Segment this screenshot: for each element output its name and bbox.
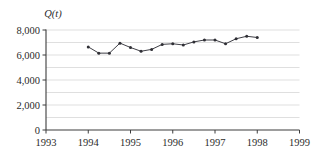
x-tick-label: 1998 — [247, 137, 268, 148]
data-point — [224, 42, 227, 45]
data-point — [161, 43, 164, 46]
data-point — [171, 42, 174, 45]
y-axis-title: Q(t) — [44, 8, 62, 20]
x-tick-label: 1994 — [78, 137, 100, 148]
data-point — [235, 37, 238, 40]
y-tick-label: 2,000 — [16, 100, 40, 111]
data-point — [203, 39, 206, 42]
data-point — [108, 52, 111, 55]
line-chart: 02,0004,0006,0008,000 199319941995199619… — [0, 0, 329, 158]
x-tick-label: 1993 — [36, 137, 57, 148]
data-point — [129, 46, 132, 49]
y-tick-label: 8,000 — [16, 25, 40, 36]
data-point — [182, 44, 185, 47]
x-tick-label: 1996 — [162, 137, 183, 148]
data-point — [192, 40, 195, 43]
data-point — [118, 42, 121, 45]
y-tick-label: 0 — [35, 125, 40, 136]
data-point — [87, 45, 90, 48]
y-axis-tick-labels: 02,0004,0006,0008,000 — [16, 25, 40, 136]
chart-container: 02,0004,0006,0008,000 199319941995199619… — [0, 0, 329, 158]
data-point-markers — [87, 35, 259, 55]
x-tick-label: 1997 — [205, 137, 226, 148]
data-point — [97, 52, 100, 55]
data-point — [245, 35, 248, 38]
x-axis-tick-labels: 1993199419951996199719981999 — [36, 137, 311, 148]
y-tick-label: 6,000 — [16, 50, 40, 61]
y-tick-label: 4,000 — [16, 75, 40, 86]
data-point — [214, 39, 217, 42]
data-point — [140, 50, 143, 53]
data-point — [256, 36, 259, 39]
x-tick-label: 1995 — [120, 137, 141, 148]
x-tick-label: 1999 — [289, 137, 310, 148]
data-point — [150, 48, 153, 51]
